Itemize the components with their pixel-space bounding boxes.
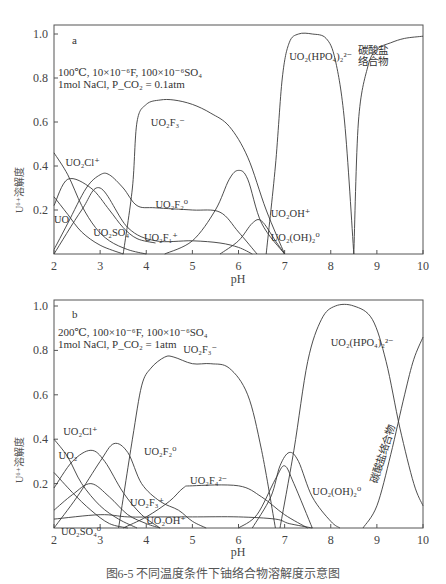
x-tick-label: 5 <box>189 533 195 547</box>
x-tick-label: 4 <box>143 533 149 547</box>
curve-series: UO₂SO₄⁰ <box>54 450 160 528</box>
species-label: UO₂F₃⁻ <box>151 117 185 128</box>
species-label: UO₂(HPO₄)₂²⁻ <box>289 51 352 63</box>
y-tick-label: 0.4 <box>33 432 48 446</box>
x-tick-label: 3 <box>97 259 103 273</box>
species-label: UO₂F₂⁰ <box>155 199 188 210</box>
species-label: UO₂ <box>59 450 78 461</box>
conditions-line2-a: 1mol NaCl, P_CO₂ = 0.1atm <box>58 78 185 90</box>
species-label: UO₂OH⁺ <box>271 208 311 219</box>
species-label: UO₂F₂⁰ <box>144 446 177 457</box>
x-tick-label: 8 <box>328 259 334 273</box>
chart-panel-b: 23456789100.20.40.60.81.0 UO₂F₃⁻UO₂(HPO₄… <box>13 299 429 559</box>
figure: 23456789100.20.40.60.81.0 UO₂F₃⁻UO₂(HPO₄… <box>0 0 446 584</box>
species-label: 碳酸盐络合物 <box>367 423 397 484</box>
species-label: UO₂(OH)₂⁰ <box>312 486 361 498</box>
curve-series: UO₂(HPO₄)₂²⁻ <box>266 33 354 254</box>
species-label: UO₂F₃⁻ <box>183 344 217 355</box>
y-axis-label-a: U⁶⁺溶解度 <box>13 167 25 213</box>
x-tick-label: 7 <box>282 259 288 273</box>
y-tick-label: 0.8 <box>33 71 48 85</box>
panel-title-a: a <box>72 34 77 46</box>
x-tick-label: 9 <box>374 533 380 547</box>
species-label: UO₂F₃⁺ <box>130 497 164 508</box>
figure-caption: 图6-5 不同温度条件下铀络合物溶解度示意图 <box>106 566 341 581</box>
species-label: UO₂OH⁺ <box>146 515 186 526</box>
x-tick-label: 2 <box>51 533 57 547</box>
x-tick-label: 4 <box>143 259 149 273</box>
species-label: UO₂SO₄ <box>93 227 129 238</box>
curve-series: 碳酸盐络合物 <box>354 36 423 254</box>
x-tick-label: 7 <box>282 533 288 547</box>
y-tick-label: 0.8 <box>33 343 48 357</box>
x-tick-label: 5 <box>189 259 195 273</box>
x-tick-label: 10 <box>417 533 429 547</box>
conditions-line1-a: 100℃, 10×10⁻⁶F, 100×10⁻⁶SO₄ <box>58 66 202 78</box>
species-label: UO₂SO₄⁰ <box>61 526 101 537</box>
species-label: UO₂F₄²⁻ <box>190 475 227 486</box>
curve-series: UO₂F⁺ <box>54 188 252 254</box>
y-tick-label: 0.6 <box>33 115 48 129</box>
conditions-line2-b: 1mol NaCl, P_CO₂ = 1atm <box>58 338 177 350</box>
species-label: UO₂Cl⁺ <box>63 426 97 437</box>
x-axis-label-a: pH <box>231 272 246 286</box>
x-tick-label: 10 <box>417 259 429 273</box>
conditions-line1-b: 200℃, 100×10⁻⁶F, 100×10⁻⁶SO₄ <box>58 326 208 338</box>
species-label: UO₂F₁⁺ <box>144 232 178 243</box>
species-label: 碳酸盐 <box>358 44 388 56</box>
y-tick-label: 0.6 <box>33 388 48 402</box>
panel-title-b: b <box>72 308 78 320</box>
species-label: 络合物 <box>358 55 388 67</box>
x-tick-label: 2 <box>51 259 57 273</box>
y-axis-label-b: U⁶⁺溶解度 <box>13 437 25 483</box>
x-tick-label: 8 <box>328 533 334 547</box>
species-label: UO₂(OH)₂⁰ <box>271 232 320 244</box>
x-tick-label: 6 <box>236 259 242 273</box>
species-label: UO₂Cl⁺ <box>66 157 100 168</box>
chart-panel-a: 23456789100.20.40.60.81.0 UO₂F₃⁻UO₂(HPO₄… <box>13 25 429 286</box>
y-tick-label: 0.2 <box>33 203 48 217</box>
y-tick-label: 1.0 <box>33 299 48 313</box>
y-tick-label: 0.2 <box>33 477 48 491</box>
x-tick-label: 9 <box>374 259 380 273</box>
y-tick-label: 1.0 <box>33 27 48 41</box>
x-axis-label-b: pH <box>231 545 246 559</box>
y-tick-label: 0.4 <box>33 159 48 173</box>
species-label: UO₂(HPO₄)₂²⁻ <box>331 337 394 349</box>
species-label: UO <box>54 214 70 225</box>
